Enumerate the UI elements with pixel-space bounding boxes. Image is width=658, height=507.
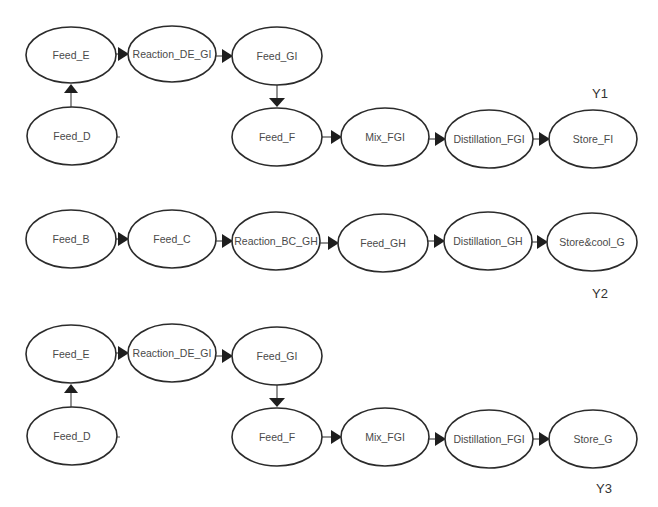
scenario-label-y3: Y3 <box>596 481 612 496</box>
process-node-y1-distillation-fgi[interactable]: Distillation_FGI <box>445 110 533 168</box>
node-label: Store&cool_G <box>559 236 624 248</box>
process-node-y1-feed-gi[interactable]: Feed_GI <box>232 27 322 85</box>
process-node-y3-distillation-fgi[interactable]: Distillation_FGI <box>445 410 533 468</box>
process-node-y3-feed-d[interactable]: Feed_D <box>27 407 117 465</box>
process-node-y1-feed-f[interactable]: Feed_F <box>232 108 322 166</box>
node-label: Reaction_DE_GI <box>133 48 212 60</box>
process-node-y1-feed-e[interactable]: Feed_E <box>26 27 116 83</box>
process-node-y3-feed-f[interactable]: Feed_F <box>232 408 322 466</box>
process-flow-diagram: Feed_EReaction_DE_GIFeed_GIFeed_DFeed_FM… <box>0 0 658 507</box>
process-node-y2-feed-gh[interactable]: Feed_GH <box>338 214 428 272</box>
process-node-y1-store-fi[interactable]: Store_FI <box>549 110 637 168</box>
process-node-y2-store-cool-g[interactable]: Store&cool_G <box>547 213 637 271</box>
scenario-label-y1: Y1 <box>592 86 608 101</box>
process-node-y2-feed-c[interactable]: Feed_C <box>128 210 216 268</box>
node-label: Distillation_FGI <box>453 133 524 145</box>
process-node-y3-reaction-de-gi[interactable]: Reaction_DE_GI <box>128 324 216 382</box>
node-label: Reaction_BC_GH <box>234 235 317 247</box>
node-label: Mix_FGI <box>365 431 405 443</box>
node-label: Feed_GH <box>360 237 406 249</box>
process-node-y1-mix-fgi[interactable]: Mix_FGI <box>341 108 429 166</box>
process-node-y1-feed-d[interactable]: Feed_D <box>27 107 117 165</box>
node-label: Store_G <box>573 433 612 445</box>
node-label: Feed_GI <box>257 50 298 62</box>
node-label: Feed_GI <box>257 350 298 362</box>
node-label: Distillation_FGI <box>453 433 524 445</box>
node-label: Feed_D <box>53 130 91 142</box>
process-node-y3-store-g[interactable]: Store_G <box>549 410 637 468</box>
process-node-y2-reaction-bc-gh[interactable]: Reaction_BC_GH <box>232 212 320 270</box>
node-label: Feed_D <box>53 430 91 442</box>
process-node-y1-reaction-de-gi[interactable]: Reaction_DE_GI <box>128 26 216 82</box>
node-label: Feed_C <box>153 233 191 245</box>
process-node-y2-distillation-gh[interactable]: Distillation_GH <box>444 212 532 270</box>
process-node-y2-feed-b[interactable]: Feed_B <box>26 210 116 268</box>
node-label: Feed_E <box>53 49 90 61</box>
process-node-y3-feed-e[interactable]: Feed_E <box>26 325 116 383</box>
node-label: Mix_FGI <box>365 131 405 143</box>
node-label: Store_FI <box>573 133 613 145</box>
scenario-label-y2: Y2 <box>592 286 608 301</box>
node-label: Feed_F <box>259 131 295 143</box>
node-label: Feed_B <box>53 233 90 245</box>
node-label: Feed_F <box>259 431 295 443</box>
node-label: Feed_E <box>53 348 90 360</box>
node-label: Distillation_GH <box>453 235 522 247</box>
process-node-y3-feed-gi[interactable]: Feed_GI <box>232 327 322 385</box>
process-node-y3-mix-fgi[interactable]: Mix_FGI <box>341 408 429 466</box>
node-label: Reaction_DE_GI <box>133 347 212 359</box>
